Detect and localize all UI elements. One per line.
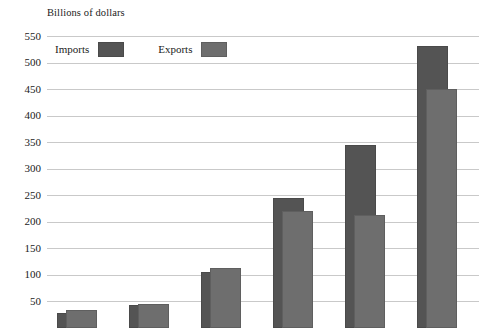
bar-exports[interactable] <box>66 310 97 327</box>
legend-spacer <box>124 49 158 50</box>
y-axis-tick-label: 150 <box>7 243 41 254</box>
y-axis-tick-labels: 55050045040035030025020015010050 <box>0 36 41 328</box>
bar-exports[interactable] <box>138 304 169 328</box>
y-axis-title: Billions of dollars <box>47 7 125 18</box>
y-axis-tick-label: 50 <box>7 296 41 307</box>
bar-group <box>335 36 407 328</box>
bar-exports[interactable] <box>426 89 457 328</box>
legend-swatch-imports <box>98 42 124 57</box>
legend-swatch-exports <box>201 42 227 57</box>
y-axis-tick-label: 200 <box>7 216 41 227</box>
bar-group <box>407 36 479 328</box>
y-axis-tick-label: 100 <box>7 269 41 280</box>
legend-entry-imports[interactable]: Imports <box>55 42 124 57</box>
y-axis-tick-label: 250 <box>7 190 41 201</box>
y-axis-tick-label: 400 <box>7 110 41 121</box>
legend-label-exports: Exports <box>158 43 192 55</box>
y-axis-tick-label: 300 <box>7 163 41 174</box>
bar-group <box>191 36 263 328</box>
bar-exports[interactable] <box>282 211 313 328</box>
legend-label-imports: Imports <box>55 43 89 55</box>
y-axis-tick-label: 350 <box>7 137 41 148</box>
bar-exports[interactable] <box>354 215 385 327</box>
bar-exports[interactable] <box>210 268 241 327</box>
bar-group <box>119 36 191 328</box>
y-axis-tick-label: 550 <box>7 31 41 42</box>
legend-entry-exports[interactable]: Exports <box>158 42 227 57</box>
bar-group <box>47 36 119 328</box>
legend: Imports Exports <box>55 38 227 60</box>
y-axis-tick-label: 500 <box>7 57 41 68</box>
y-axis-tick-label: 450 <box>7 84 41 95</box>
bar-group <box>263 36 335 328</box>
plot-area <box>47 36 479 328</box>
